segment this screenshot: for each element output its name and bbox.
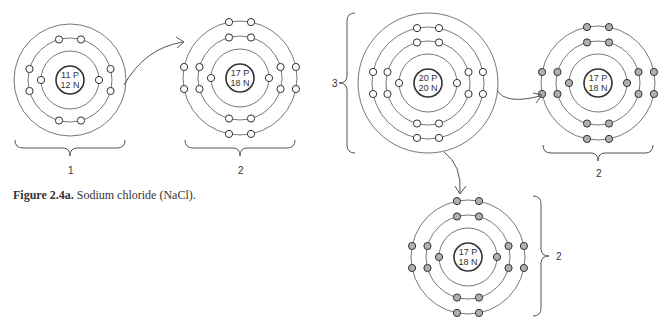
electron [225, 130, 232, 137]
electron [520, 264, 527, 271]
electron [505, 242, 512, 249]
electron [395, 79, 402, 86]
electron [369, 68, 376, 75]
brace-calcium [339, 13, 355, 153]
electron [453, 294, 460, 301]
electron [247, 18, 254, 25]
electron [413, 134, 420, 141]
electron [650, 68, 657, 75]
electron [180, 85, 187, 92]
electron [277, 63, 284, 70]
atom-chlorine-3: 17 P18 N [408, 197, 527, 316]
electron [37, 76, 44, 83]
transfer-arrow-na-cl [124, 42, 183, 85]
atom-chlorine-1: 17 P18 N [180, 18, 299, 137]
electron [583, 120, 590, 127]
electron [475, 309, 482, 316]
proton-count: 17 P [231, 68, 250, 78]
electron [384, 68, 391, 75]
electron [650, 90, 657, 97]
electron [247, 115, 254, 122]
atom-chlorine-2: 17 P18 N [538, 23, 657, 142]
electron [247, 130, 254, 137]
electron [479, 90, 486, 97]
proton-count: 17 P [589, 73, 608, 83]
electron [623, 79, 630, 86]
electron [520, 242, 527, 249]
brace-chlorine-3 [533, 196, 549, 316]
electron [538, 68, 545, 75]
caption-label: Figure 2.4a. [13, 188, 74, 202]
electron [465, 68, 472, 75]
electron [292, 63, 299, 70]
electron [413, 39, 420, 46]
electron [26, 87, 33, 94]
electron [583, 39, 590, 46]
transfer-arrow-ca-cl-bottom [444, 152, 460, 193]
electron [475, 294, 482, 301]
electron [265, 74, 272, 81]
electron [493, 253, 500, 260]
electron [225, 34, 232, 41]
electron [207, 74, 214, 81]
electron [565, 79, 572, 86]
atom-calcium: 20 P20 N [358, 13, 498, 153]
electron [635, 68, 642, 75]
neutron-count: 18 N [230, 78, 249, 88]
brace-chlorine-1 [185, 140, 295, 156]
electron [435, 134, 442, 141]
electron [583, 135, 590, 142]
electron [55, 36, 62, 43]
electron [605, 23, 612, 30]
neutron-count: 12 N [60, 80, 79, 90]
electron [435, 39, 442, 46]
electron [26, 65, 33, 72]
electron [413, 120, 420, 127]
electron [605, 135, 612, 142]
caption-text: Sodium chloride (NaCl). [74, 188, 196, 202]
electron [196, 85, 203, 92]
electron [505, 264, 512, 271]
electron [605, 120, 612, 127]
electron [583, 23, 590, 30]
figure-caption: Figure 2.4a. Sodium chloride (NaCl). [13, 188, 196, 203]
proton-count: 20 P [419, 73, 438, 83]
ionic-bond-diagram: 11 P12 N17 P18 N20 P20 N17 P18 N17 P18 N… [0, 0, 671, 321]
electron [635, 90, 642, 97]
electron [424, 264, 431, 271]
electron [77, 36, 84, 43]
electron [95, 76, 102, 83]
atom-sodium: 11 P12 N [14, 24, 126, 136]
proton-count: 17 P [459, 247, 478, 257]
electron [465, 90, 472, 97]
label-chlorine-2: 2 [596, 168, 602, 179]
electron [196, 63, 203, 70]
electron [247, 34, 254, 41]
electron [292, 85, 299, 92]
electron [424, 242, 431, 249]
electron [55, 117, 62, 124]
electron [453, 197, 460, 204]
electron [475, 213, 482, 220]
electron [453, 79, 460, 86]
electron [408, 264, 415, 271]
brace-chlorine-2 [543, 145, 653, 161]
electron [107, 87, 114, 94]
label-sodium: 1 [68, 165, 74, 176]
electron [435, 120, 442, 127]
electron [413, 24, 420, 31]
transfer-arrow-ca-cl [497, 90, 540, 99]
neutron-count: 18 N [588, 83, 607, 93]
label-chlorine-3: 2 [556, 251, 562, 262]
electron [277, 85, 284, 92]
electron [180, 63, 187, 70]
electron [225, 115, 232, 122]
electron [554, 68, 561, 75]
electron [605, 39, 612, 46]
electron [453, 213, 460, 220]
electron [475, 197, 482, 204]
electron [384, 90, 391, 97]
electron [369, 90, 376, 97]
proton-count: 11 P [61, 70, 79, 80]
electron [77, 117, 84, 124]
